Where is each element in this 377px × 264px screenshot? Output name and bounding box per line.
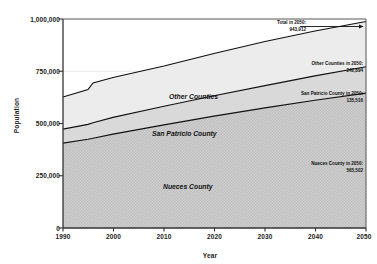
- x-axis-title: Year: [180, 252, 240, 259]
- y-tick-750000: 750,000: [2, 68, 60, 75]
- x-tick-2050: 2050: [344, 233, 377, 240]
- y-tick-500000: 500,000: [2, 120, 60, 127]
- annotation-total-label: Total in 2050:: [277, 20, 306, 25]
- x-tick-2000: 2000: [94, 233, 134, 240]
- annotation-san-patricio-label: San Patricio County in 2050:: [301, 91, 363, 96]
- y-axis-ticks: 1,000,000 750,000 500,000 250,000 0: [0, 0, 60, 264]
- annotation-san-patricio-2050: San Patricio County in 2050: 135,516: [243, 91, 363, 104]
- x-tick-1990: 1990: [43, 233, 83, 240]
- annotation-other-label: Other Counties in 2050:: [311, 61, 363, 66]
- annotation-total-value: 943,912: [246, 27, 306, 34]
- series-label-san-patricio: San Patricio County: [152, 130, 217, 137]
- annotation-san-patricio-value: 135,516: [243, 98, 363, 105]
- annotation-other-counties-2050: Other Counties in 2050: 242,894: [243, 61, 363, 74]
- x-tick-2010: 2010: [144, 233, 184, 240]
- x-tick-2040: 2040: [296, 233, 336, 240]
- y-axis-title: Population: [13, 86, 20, 146]
- x-tick-2020: 2020: [195, 233, 235, 240]
- annotation-nueces-value: 565,502: [243, 168, 363, 175]
- annotation-nueces-2050: Nueces County in 2050: 565,502: [243, 161, 363, 174]
- y-tick-1000000: 1,000,000: [2, 16, 60, 23]
- series-label-other-counties: Other Counties: [169, 93, 218, 100]
- annotation-nueces-label: Nueces County in 2050:: [311, 161, 363, 166]
- y-tick-250000: 250,000: [2, 172, 60, 179]
- population-projection-chart: 1,000,000 750,000 500,000 250,000 0 1990…: [0, 0, 377, 264]
- x-tick-2030: 2030: [245, 233, 285, 240]
- annotation-other-value: 242,894: [243, 68, 363, 75]
- annotation-total-2050: Total in 2050: 943,912: [246, 20, 306, 33]
- series-label-nueces: Nueces County: [163, 183, 212, 190]
- y-tick-0: 0: [2, 225, 60, 232]
